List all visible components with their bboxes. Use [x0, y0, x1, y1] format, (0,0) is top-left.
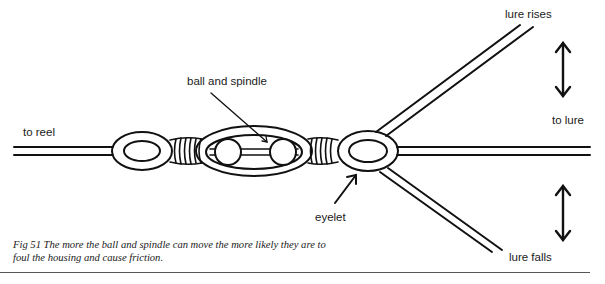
to-reel-label: to reel [23, 127, 55, 139]
caption-divider [0, 272, 590, 273]
lure-falls-label: lure falls [509, 252, 552, 264]
caption-line-1: Fig 51 The more the ball and spindle can… [13, 239, 343, 252]
left-eyelet [112, 132, 172, 170]
figure-caption: Fig 51 The more the ball and spindle can… [13, 239, 343, 264]
balls [215, 139, 296, 165]
lure-line-falling [378, 168, 502, 253]
left-coil-wrap [170, 138, 202, 165]
lure-rises-label: lure rises [505, 9, 552, 21]
lure-line-rising [376, 25, 533, 136]
caption-line-2: foul the housing and cause friction. [13, 252, 343, 265]
double-headed-vertical-arrow-icon [556, 43, 570, 96]
eyelet-label: eyelet [315, 212, 346, 224]
double-headed-vertical-arrow-icon [556, 186, 570, 240]
right-eyelet [338, 131, 398, 171]
reel-line [14, 147, 113, 155]
lure-line-level [397, 147, 590, 155]
ball-spindle-pointer [211, 93, 267, 142]
to-lure-label: to lure [552, 115, 584, 127]
ball-and-spindle-label: ball and spindle [187, 76, 267, 88]
eyelet-pointer [335, 175, 356, 203]
